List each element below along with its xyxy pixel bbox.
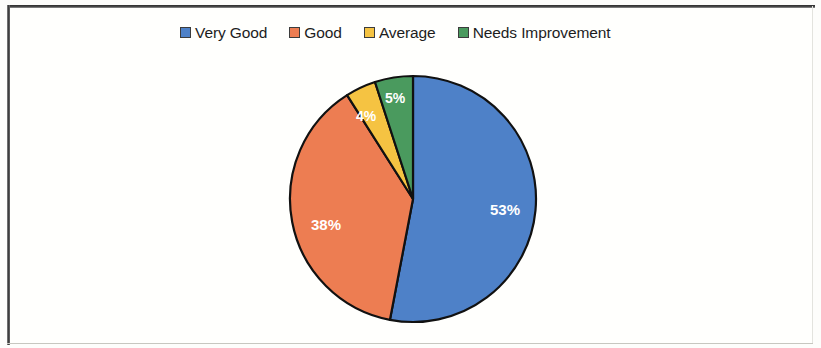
pie-slice-group <box>290 76 536 322</box>
pie-slice-data-label: 53% <box>490 201 520 218</box>
pie-slice-data-label: 5% <box>385 90 406 106</box>
pie-slice-data-label: 38% <box>311 216 341 233</box>
chart-screenshot: Very GoodGoodAverageNeeds Improvement 53… <box>0 0 821 348</box>
pie-chart-svg: 53%38%4%5% <box>0 0 821 348</box>
pie-chart: 53%38%4%5% <box>0 0 821 348</box>
pie-slice-data-label: 4% <box>356 108 377 124</box>
